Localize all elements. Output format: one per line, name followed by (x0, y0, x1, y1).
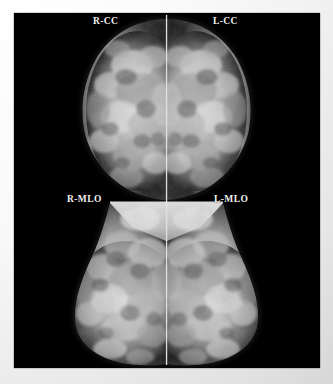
mammogram-image (14, 13, 320, 368)
scanned-page: R-CC L-CC R-MLO L-MLO (0, 0, 333, 384)
view-midline-divider (166, 15, 167, 365)
mammogram-plate: R-CC L-CC R-MLO L-MLO (14, 13, 320, 368)
